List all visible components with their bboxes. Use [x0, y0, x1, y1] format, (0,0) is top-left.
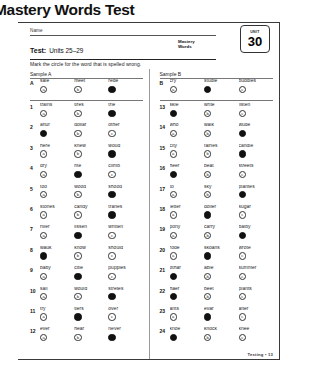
choice-word: ants — [170, 307, 205, 312]
answer-bubble[interactable]: a — [40, 293, 47, 300]
sample-b-label: Sample B — [160, 71, 274, 77]
choice-cell: candyb — [74, 205, 108, 219]
answer-bubble[interactable]: c — [239, 171, 246, 178]
item-row: 16heerabeatbstreetsc — [160, 164, 274, 184]
answer-bubble[interactable]: b — [74, 334, 81, 341]
choice-word: ever — [40, 327, 74, 332]
answer-bubble[interactable]: c — [239, 110, 246, 117]
answer-bubble[interactable]: b — [74, 150, 81, 157]
answer-bubble-filled[interactable]: b — [204, 252, 211, 259]
answer-bubble[interactable]: a — [40, 171, 47, 178]
answer-bubble-filled[interactable]: c — [239, 150, 246, 157]
answer-bubble-filled[interactable]: c — [108, 110, 115, 117]
choice-cell: dollarb — [74, 123, 108, 137]
answer-bubble[interactable]: b — [74, 191, 81, 198]
choice-cell: baibyc — [239, 225, 274, 239]
answer-bubble[interactable]: c — [108, 313, 115, 320]
choice-cell: skiea — [170, 103, 205, 117]
answer-bubble[interactable]: a — [40, 150, 47, 157]
answer-bubble[interactable]: c — [239, 293, 246, 300]
answer-bubble[interactable]: a — [40, 110, 47, 117]
choice-word: too — [40, 185, 74, 190]
answer-bubble-filled[interactable]: b — [204, 313, 211, 320]
answer-bubble[interactable]: c — [108, 171, 115, 178]
answer-bubble-filled[interactable]: a — [170, 273, 177, 280]
answer-bubble[interactable]: b — [204, 334, 211, 341]
answer-bubble[interactable]: b — [204, 171, 211, 178]
answer-bubble-filled[interactable]: a — [170, 293, 177, 300]
answer-bubble-filled[interactable]: b — [74, 232, 81, 239]
answer-bubble[interactable]: a — [40, 334, 47, 341]
answer-bubble-filled[interactable]: c — [108, 293, 115, 300]
answer-bubble[interactable]: a — [170, 86, 177, 93]
answer-bubble[interactable]: a — [170, 130, 177, 137]
answer-bubble[interactable]: b — [204, 191, 211, 198]
answer-bubble-filled[interactable]: b — [204, 211, 211, 218]
answer-bubble-filled[interactable]: b — [74, 273, 81, 280]
answer-bubble-filled[interactable]: b — [74, 171, 81, 178]
answer-bubble[interactable]: c — [239, 211, 246, 218]
name-field-label[interactable]: Name — [30, 28, 216, 36]
answer-bubble[interactable]: b — [204, 130, 211, 137]
answer-bubble[interactable]: b — [74, 110, 81, 117]
answer-bubble-filled[interactable]: a — [170, 171, 177, 178]
answer-bubble[interactable]: a — [40, 232, 47, 239]
answer-bubble-filled[interactable]: c — [108, 334, 115, 341]
answer-bubble-filled[interactable]: c — [108, 150, 115, 157]
answer-bubble[interactable]: c — [108, 252, 115, 259]
sample-a-rule-bottom — [30, 100, 143, 101]
answer-bubble[interactable]: c — [239, 334, 246, 341]
answer-bubble-filled[interactable]: c — [108, 86, 115, 93]
answer-bubble-filled[interactable]: c — [108, 211, 115, 218]
answer-bubble[interactable]: a — [170, 252, 177, 259]
answer-bubble[interactable]: a — [170, 150, 177, 157]
answer-bubble-filled[interactable]: c — [108, 191, 115, 198]
answer-bubble[interactable]: c — [239, 273, 246, 280]
answer-bubble-filled[interactable]: c — [239, 191, 246, 198]
answer-bubble-filled[interactable]: a — [40, 130, 47, 137]
answer-bubble[interactable]: a — [40, 273, 47, 280]
answer-bubble[interactable]: a — [170, 211, 177, 218]
answer-bubble[interactable]: c — [108, 232, 115, 239]
answer-bubble-filled[interactable]: b — [74, 313, 81, 320]
answer-bubble[interactable]: b — [204, 110, 211, 117]
answer-bubble-filled[interactable]: b — [204, 86, 211, 93]
answer-bubble[interactable]: b — [74, 130, 81, 137]
item-number: 6 — [30, 205, 40, 212]
answer-bubble[interactable]: a — [40, 313, 47, 320]
right-column: Sample B Bcryastudiebbuddiesc 13skieawri… — [149, 69, 280, 359]
answer-bubble-filled[interactable]: a — [40, 252, 47, 259]
answer-bubble[interactable]: b — [204, 232, 211, 239]
answer-bubble[interactable]: a — [170, 313, 177, 320]
answer-bubble[interactable]: c — [239, 252, 246, 259]
answer-bubble[interactable]: c — [108, 130, 115, 137]
item-row: 15cityafairiesbcandiec — [160, 144, 274, 164]
answer-bubble[interactable]: a — [40, 191, 47, 198]
answer-bubble[interactable]: b — [74, 86, 81, 93]
item-row: 11tryatiersboverc — [30, 307, 143, 327]
choice-cell: hearb — [74, 327, 108, 341]
answer-bubble[interactable]: c — [239, 86, 246, 93]
answer-bubble-filled[interactable]: c — [239, 232, 246, 239]
choice-cell: redec — [108, 79, 142, 93]
answer-bubble[interactable]: b — [74, 211, 81, 218]
choice-word: sale — [40, 79, 74, 84]
choice-cell: woodb — [74, 185, 108, 199]
choice-word: carry — [204, 225, 239, 230]
answer-bubble-filled[interactable]: c — [239, 130, 246, 137]
item-row: 18letteradollerbsugarc — [160, 205, 274, 225]
choice-word: knew — [74, 144, 108, 149]
answer-bubble[interactable]: c — [108, 273, 115, 280]
answer-bubble[interactable]: b — [204, 273, 211, 280]
answer-bubble[interactable]: b — [204, 293, 211, 300]
answer-bubble[interactable]: b — [74, 252, 81, 259]
answer-bubble[interactable]: b — [74, 293, 81, 300]
answer-bubble[interactable]: a — [40, 211, 47, 218]
answer-bubble[interactable]: b — [204, 150, 211, 157]
answer-bubble-filled[interactable]: a — [170, 110, 177, 117]
answer-bubble-filled[interactable]: a — [170, 334, 177, 341]
answer-bubble[interactable]: a — [170, 232, 177, 239]
answer-bubble[interactable]: c — [239, 313, 246, 320]
answer-bubble[interactable]: a — [40, 86, 47, 93]
answer-bubble[interactable]: a — [170, 191, 177, 198]
